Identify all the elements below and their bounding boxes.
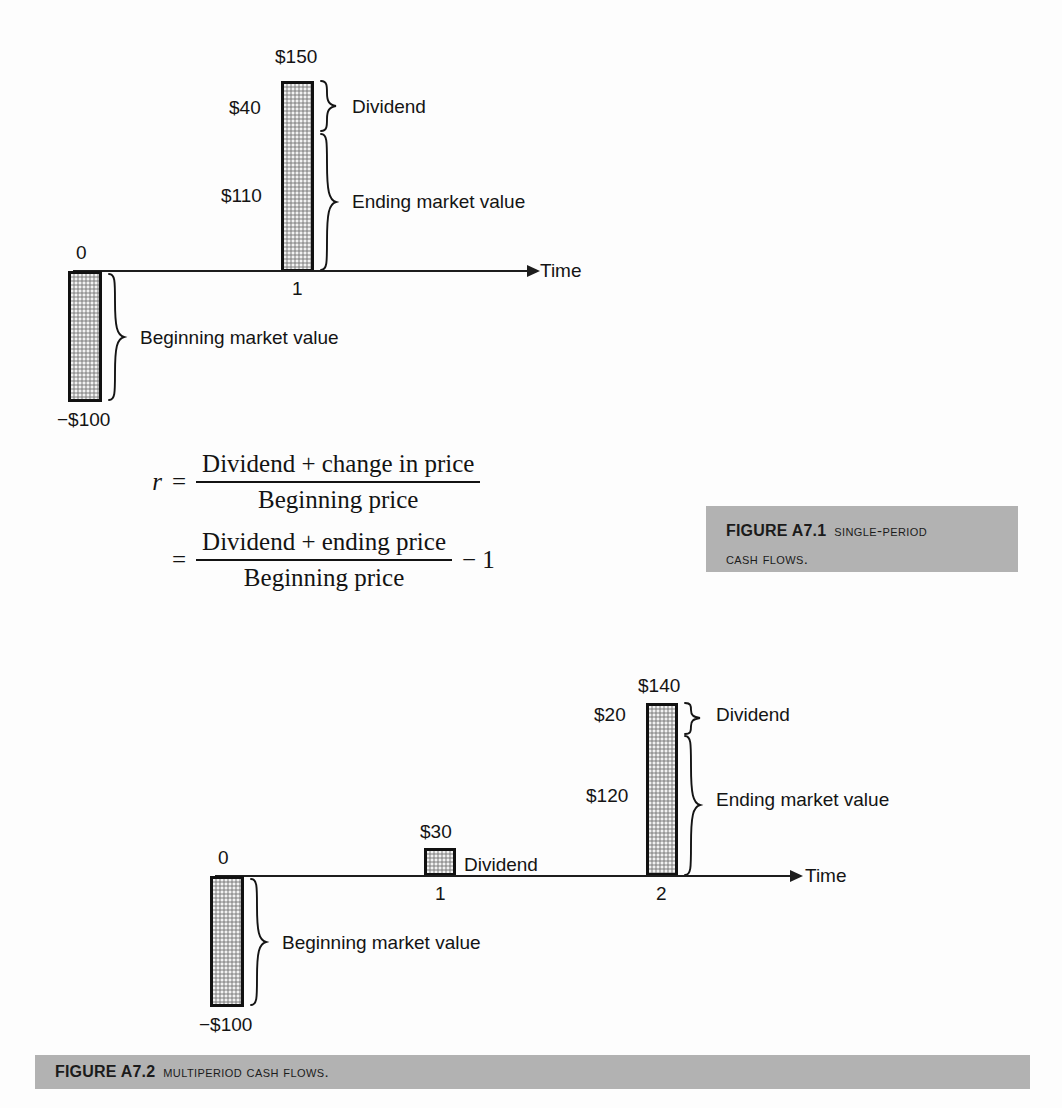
fig1-tick-1: 1 (292, 279, 303, 298)
fig2-tick-1: 1 (435, 884, 446, 903)
fig2-beginning-value-amount: −$100 (199, 1015, 252, 1034)
figure-a7-2-caption-inner: FIGURE A7.2Multiperiod cash flows. (35, 1063, 329, 1081)
figure-a7-1-caption-line1: Single-period (834, 522, 927, 539)
figure-a7-2-caption: FIGURE A7.2Multiperiod cash flows. (35, 1055, 1030, 1089)
fig2-axis-label: Time (805, 866, 847, 885)
formula-row-1: r = Dividend + change in price Beginning… (140, 450, 495, 514)
fig1-dividend-brace-label: Dividend (352, 97, 426, 116)
fig1-ending-value-brace (318, 133, 340, 271)
fig1-dividend-bar (281, 81, 314, 131)
fig1-beginning-value-brace-label: Beginning market value (140, 328, 339, 347)
fig2-beginning-value-brace-label: Beginning market value (282, 933, 481, 952)
fig1-beginning-value-brace (106, 273, 128, 401)
fig2-t2-dividend-brace-label: Dividend (716, 705, 790, 724)
figure-a7-2-caption-title: FIGURE A7.2 (55, 1063, 155, 1080)
formula-row2-tail: − 1 (462, 546, 495, 574)
fig1-axis-label: Time (540, 261, 582, 280)
fig2-t1-label: $30 (420, 822, 452, 841)
formula-row2-denominator: Beginning price (238, 561, 410, 592)
fig2-t1-dividend-bar (424, 848, 456, 876)
fig2-t2-total-label: $140 (638, 676, 680, 695)
fig2-t2-ending-value-brace-label: Ending market value (716, 790, 889, 809)
fig1-dividend-brace (318, 80, 340, 132)
formula-row1-equals: = (172, 468, 186, 496)
formula-row1-fraction: Dividend + change in price Beginning pri… (196, 450, 480, 514)
formula-row2-fraction: Dividend + ending price Beginning price (196, 528, 452, 592)
fig2-tick-2: 2 (656, 884, 667, 903)
fig1-beginning-value-amount: −$100 (57, 410, 110, 429)
figure-a7-1: $150 $40 $110 Dividend Ending market val… (0, 0, 1062, 470)
fig1-ending-value-brace-label: Ending market value (352, 192, 525, 211)
formula-row1-denominator: Beginning price (252, 483, 424, 514)
fig1-dividend-amount: $40 (229, 98, 261, 117)
fig1-ending-value-bar (281, 128, 314, 272)
figure-a7-2: $140 $20 $120 Dividend Ending market val… (0, 620, 1062, 1040)
fig2-beginning-value-brace (248, 878, 270, 1006)
return-formula: r = Dividend + change in price Beginning… (140, 450, 495, 592)
figure-a7-2-caption-line1: Multiperiod cash flows. (163, 1063, 329, 1080)
fig2-t2-ending-value-bar (646, 730, 678, 876)
formula-row2-equals: = (172, 546, 186, 574)
fig2-axis-line (215, 875, 791, 877)
fig2-t2-ending-value-brace (682, 735, 704, 876)
fig2-tick-0: 0 (218, 848, 229, 867)
fig2-t2-ending-amount: $120 (586, 786, 628, 805)
formula-row-2: = Dividend + ending price Beginning pric… (140, 528, 495, 592)
figure-a7-1-caption: FIGURE A7.1Single-period cash flows. (706, 506, 1018, 572)
fig2-axis-arrow (790, 870, 803, 882)
figure-a7-1-caption-title: FIGURE A7.1 (726, 522, 826, 539)
fig1-beginning-value-bar (68, 271, 102, 402)
fig1-total-label: $150 (275, 47, 317, 66)
fig1-axis-line (73, 270, 528, 272)
fig1-ending-value-amount: $110 (221, 186, 262, 205)
fig2-t2-dividend-bar (646, 703, 678, 733)
page-canvas: $150 $40 $110 Dividend Ending market val… (0, 0, 1062, 1108)
formula-row2-numerator: Dividend + ending price (196, 528, 452, 561)
fig2-beginning-value-bar (210, 876, 244, 1007)
fig2-t1-dividend-label: Dividend (464, 855, 538, 874)
figure-a7-1-caption-inner: FIGURE A7.1Single-period cash flows. (706, 522, 1018, 567)
fig1-tick-0: 0 (76, 243, 87, 262)
fig2-t2-dividend-amount: $20 (594, 705, 626, 724)
fig2-t2-dividend-brace (682, 702, 704, 735)
figure-a7-1-caption-line2: cash flows. (726, 550, 1018, 567)
formula-row1-numerator: Dividend + change in price (196, 450, 480, 483)
formula-lhs: r (140, 468, 162, 496)
fig1-axis-arrow (527, 265, 540, 277)
